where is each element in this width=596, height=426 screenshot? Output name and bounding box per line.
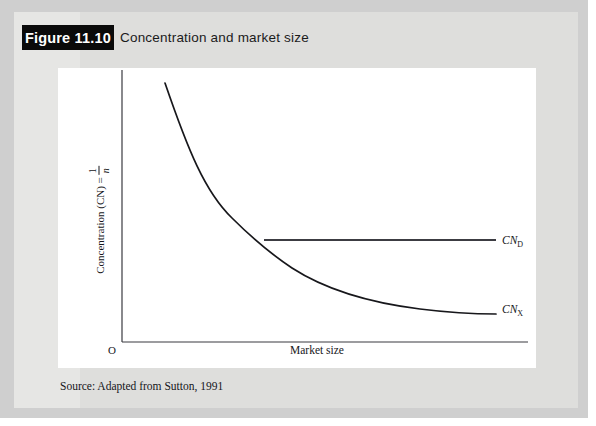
cn-x-label-base: CN — [502, 303, 517, 315]
chart-panel — [58, 68, 536, 368]
origin-label: O — [108, 344, 116, 356]
y-axis-label: Concentration (CN) = 1 n — [88, 166, 111, 274]
y-axis-label-container: Concentration (CN) = 1 n — [88, 140, 110, 300]
cn-x-label-subscript: X — [517, 309, 523, 318]
fraction-denominator: n — [100, 166, 110, 175]
cn-d-label-base: CN — [502, 234, 517, 246]
figure-screenshot: Figure 11.10 Concentration and market si… — [0, 0, 596, 426]
figure-title: Concentration and market size — [120, 30, 309, 45]
y-axis-label-fraction: 1 n — [87, 166, 110, 175]
cn-x-curve-label: CNX — [502, 303, 523, 318]
x-axis-label: Market size — [290, 344, 344, 356]
figure-number-tag: Figure 11.10 — [22, 25, 114, 50]
fraction-numerator: 1 — [87, 166, 97, 175]
cn-d-curve-label: CND — [502, 234, 523, 249]
y-axis-label-text: Concentration (CN) = — [93, 177, 105, 274]
figure-source-note: Source: Adapted from Sutton, 1991 — [60, 380, 223, 392]
cn-d-label-subscript: D — [517, 240, 523, 249]
